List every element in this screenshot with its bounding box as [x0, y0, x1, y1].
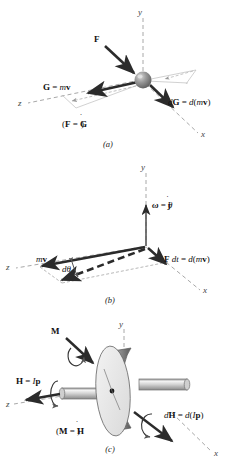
panel-b-impulse-label: F dt = d(mv)	[164, 254, 210, 264]
panel-c-shaft-right	[139, 379, 190, 390]
panel-a-force-label: F	[94, 34, 100, 44]
panel-a-x-label: x	[200, 129, 205, 139]
momentum-figure: y z x F G = mv dG = d(mv)	[0, 0, 230, 458]
panel-c-angular-momentum-change-label: dH = d(Ip)	[164, 410, 204, 420]
panel-b-z-label: z	[5, 262, 10, 272]
panel-a-particle	[135, 72, 152, 89]
panel-a-momentum-change-label: dG = d(mv)	[168, 97, 211, 107]
panel-c-caption: (c)	[105, 444, 115, 454]
panel-c-angular-momentum-label: H = Ip	[16, 376, 41, 386]
panel-c-z-label: z	[5, 399, 10, 409]
panel-c-moment-label: M	[51, 326, 60, 336]
panel-b-angle-label: dθ	[62, 264, 72, 274]
panel-c-y-label: y	[118, 319, 123, 329]
panel-b-x-label: x	[202, 285, 207, 295]
panel-b-momentum-label: mv	[36, 254, 48, 264]
panel-b-y-label: y	[140, 162, 145, 172]
panel-a-momentum-label: G = mv	[43, 82, 71, 92]
panel-b-caption: (b)	[105, 295, 115, 305]
panel-a-z-label: z	[17, 98, 22, 108]
panel-a-caption: (a)	[103, 139, 113, 149]
panel-c-x-label: x	[213, 448, 218, 458]
panel-a-y-label: y	[137, 7, 142, 17]
panel-a-particle-highlight	[137, 75, 142, 79]
